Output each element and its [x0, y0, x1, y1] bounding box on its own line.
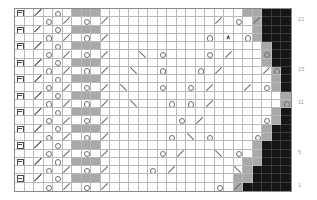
chart-cell [243, 26, 253, 34]
chart-cell [215, 26, 225, 34]
chart-cell [15, 59, 25, 67]
chart-cell [224, 75, 234, 83]
chart-cell [34, 150, 44, 158]
chart-cell [177, 75, 187, 83]
chart-cell [25, 34, 35, 42]
chart-cell [53, 100, 63, 108]
chart-cell [34, 83, 44, 91]
chart-cell [139, 100, 149, 108]
chart-row [15, 67, 291, 75]
chart-cell [234, 42, 244, 50]
chart-cell [82, 133, 92, 141]
chart-cell [120, 75, 130, 83]
k2tog-icon [196, 116, 205, 123]
k2tog-icon [205, 83, 214, 90]
bobble-icon [15, 92, 24, 99]
chart-cell [25, 125, 35, 133]
chart-cell [148, 42, 158, 50]
yarn-over-icon [44, 100, 53, 107]
chart-cell [129, 67, 139, 75]
chart-cell [110, 75, 120, 83]
chart-cell [158, 92, 168, 100]
chart-row [15, 83, 291, 91]
chart-cell [215, 59, 225, 67]
chart-cell [196, 133, 206, 141]
yarn-over-icon [196, 67, 205, 74]
chart-cell [15, 166, 25, 174]
yarn-over-icon [44, 34, 53, 41]
chart-cell [53, 75, 63, 83]
chart-cell [253, 59, 263, 67]
chart-cell [63, 100, 73, 108]
chart-cell [34, 75, 44, 83]
chart-cell [186, 100, 196, 108]
chart-cell [101, 92, 111, 100]
chart-cell [129, 133, 139, 141]
k2tog-icon [101, 100, 110, 107]
chart-cell [63, 17, 73, 25]
chart-cell [243, 100, 253, 108]
chart-cell [82, 42, 92, 50]
chart-cell [139, 34, 149, 42]
chart-cell [53, 133, 63, 141]
chart-cell [243, 133, 253, 141]
chart-cell [15, 150, 25, 158]
chart-grid: ∧ [14, 8, 292, 192]
k2tog-icon [167, 166, 176, 173]
chart-cell [82, 50, 92, 58]
chart-cell [158, 100, 168, 108]
chart-cell [91, 17, 101, 25]
chart-cell [120, 83, 130, 91]
chart-cell [215, 108, 225, 116]
chart-cell [196, 125, 206, 133]
chart-cell [272, 166, 282, 174]
chart-cell [101, 116, 111, 124]
chart-cell [196, 158, 206, 166]
chart-cell [34, 59, 44, 67]
chart-cell [272, 83, 282, 91]
chart-cell [120, 9, 130, 17]
chart-row [15, 166, 291, 174]
chart-cell [34, 67, 44, 75]
k2tog-icon [215, 17, 224, 24]
yarn-over-icon [186, 100, 195, 107]
chart-cell [272, 174, 282, 182]
chart-cell [158, 17, 168, 25]
chart-row [15, 174, 291, 182]
chart-cell [205, 34, 215, 42]
chart-cell [101, 26, 111, 34]
chart-cell [148, 83, 158, 91]
chart-cell [186, 9, 196, 17]
k2tog-icon [101, 34, 110, 41]
chart-cell [177, 116, 187, 124]
decrease-icon [34, 42, 43, 49]
chart-cell [253, 133, 263, 141]
chart-cell [167, 42, 177, 50]
chart-cell [262, 158, 272, 166]
chart-cell [243, 108, 253, 116]
chart-cell [139, 9, 149, 17]
chart-cell [186, 166, 196, 174]
yarn-over-icon [44, 150, 53, 157]
chart-cell [34, 17, 44, 25]
chart-cell [281, 100, 291, 108]
chart-cell [44, 141, 54, 149]
chart-cell [272, 116, 282, 124]
chart-cell [262, 100, 272, 108]
chart-cell [167, 183, 177, 191]
chart-cell [110, 100, 120, 108]
yarn-over-icon [44, 17, 53, 24]
chart-cell [243, 34, 253, 42]
chart-cell [186, 50, 196, 58]
ssk-icon [215, 150, 224, 157]
chart-cell [281, 67, 291, 75]
yarn-over-icon [53, 158, 62, 165]
chart-cell [177, 59, 187, 67]
chart-cell [101, 75, 111, 83]
chart-cell [129, 83, 139, 91]
chart-row [15, 59, 291, 67]
chart-cell [82, 67, 92, 75]
chart-cell [44, 150, 54, 158]
chart-cell [196, 166, 206, 174]
chart-cell [15, 83, 25, 91]
